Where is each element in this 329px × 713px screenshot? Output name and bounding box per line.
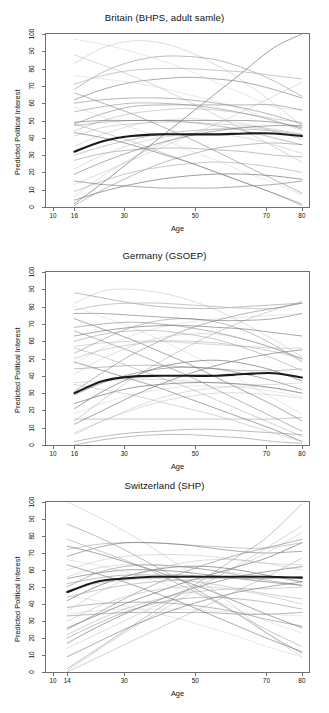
trajectory-line [74,341,301,348]
y-tick-mark [42,138,45,139]
y-tick-label: 30 [23,388,41,398]
y-tick-mark [42,536,45,537]
trajectory-line [74,313,301,320]
panel-title-germany: Germany (GSOEP) [0,250,329,261]
y-tick-label: 20 [23,633,41,643]
y-tick-label: 50 [23,582,41,592]
x-tick-mark [302,208,303,211]
y-tick-mark [42,341,45,342]
y-tick-mark [42,359,45,360]
y-tick-mark [42,621,45,622]
y-tick-mark [42,570,45,571]
y-tick-mark [42,604,45,605]
y-tick-mark [42,638,45,639]
y-tick-label: 30 [23,150,41,160]
trajectory-line [74,293,301,309]
y-tick-label: 80 [23,531,41,541]
panel-switzerland: Switzerland (SHP) Predicted Political In… [0,470,329,713]
panel-title-switzerland: Switzerland (SHP) [0,480,329,491]
x-tick-label: 80 [292,212,312,219]
y-tick-mark [42,69,45,70]
x-tick-label: 50 [185,677,205,684]
y-tick-mark [42,272,45,273]
x-tick-label: 30 [114,450,134,457]
plot-curves-switzerland [46,502,309,672]
y-tick-mark [42,502,45,503]
x-tick-label: 80 [292,677,312,684]
y-tick-mark [42,410,45,411]
trajectory-line [74,348,301,436]
x-tick-label: 30 [114,677,134,684]
y-tick-label: 100 [23,497,41,507]
x-tick-mark [266,673,267,676]
y-tick-mark [42,519,45,520]
plot-curves-germany [46,272,309,445]
y-tick-label: 10 [23,650,41,660]
y-tick-mark [42,207,45,208]
y-tick-label: 0 [23,667,41,677]
x-tick-mark [53,673,54,676]
y-tick-label: 10 [23,185,41,195]
x-tick-mark [124,673,125,676]
trajectory-line [74,303,301,391]
y-tick-mark [42,307,45,308]
y-tick-label: 30 [23,616,41,626]
y-tick-label: 40 [23,371,41,381]
y-tick-label: 20 [23,167,41,177]
trajectory-line [74,68,301,84]
trajectory-line [74,386,301,414]
x-tick-label: 16 [64,212,84,219]
trajectory-line [74,77,301,99]
y-tick-label: 50 [23,354,41,364]
x-tick-label: 10 [43,212,63,219]
x-tick-mark [195,446,196,449]
x-tick-mark [266,208,267,211]
y-tick-label: 60 [23,98,41,108]
trajectory-line [74,365,301,371]
x-tick-mark [124,208,125,211]
panel-germany: Germany (GSOEP) Predicted Political Inte… [0,235,329,470]
y-tick-mark [42,103,45,104]
trajectory-line [67,504,302,669]
trajectory-line [74,107,301,195]
x-tick-label: 16 [64,450,84,457]
y-tick-mark [42,655,45,656]
x-tick-label: 70 [256,450,276,457]
x-tick-mark [302,673,303,676]
x-tick-label: 10 [43,450,63,457]
y-tick-mark [42,121,45,122]
x-tick-mark [53,208,54,211]
y-tick-mark [42,672,45,673]
y-tick-mark [42,553,45,554]
x-tick-mark [67,673,68,676]
y-tick-mark [42,393,45,394]
x-tick-mark [53,446,54,449]
y-tick-label: 20 [23,405,41,415]
y-tick-label: 60 [23,336,41,346]
y-tick-mark [42,445,45,446]
x-tick-label: 70 [256,212,276,219]
y-tick-mark [42,34,45,35]
y-tick-label: 90 [23,46,41,56]
y-tick-mark [42,86,45,87]
panel-title-britain: Britain (BHPS, adult samle) [0,12,329,23]
y-tick-label: 100 [23,29,41,39]
y-tick-label: 100 [23,267,41,277]
x-tick-label: 50 [185,212,205,219]
trajectory-line [74,383,301,404]
x-tick-mark [302,446,303,449]
y-tick-label: 90 [23,284,41,294]
x-axis-label-britain: Age [45,224,310,233]
x-tick-label: 80 [292,450,312,457]
trajectory-line [74,434,301,445]
y-tick-mark [42,172,45,173]
trajectory-line [74,56,301,96]
plot-curves-britain [46,34,309,207]
y-tick-mark [42,289,45,290]
y-tick-label: 90 [23,514,41,524]
y-tick-label: 50 [23,116,41,126]
x-axis-label-switzerland: Age [45,689,310,698]
y-tick-label: 0 [23,440,41,450]
x-tick-mark [74,208,75,211]
panel-britain: Britain (BHPS, adult samle) Predicted Po… [0,0,329,235]
